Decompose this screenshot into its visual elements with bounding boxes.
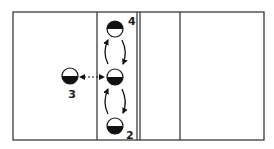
arrow-center-to-4-icon: [105, 40, 108, 64]
player-2-icon: [107, 118, 123, 134]
player-4-icon: [107, 21, 123, 37]
court-diagram: 4 3 2: [0, 0, 274, 149]
arrow-4-to-center-icon: [122, 40, 125, 64]
player-4-label: 4: [128, 15, 136, 28]
player-center-icon: [107, 69, 123, 85]
arrow-2-to-center-icon: [105, 89, 108, 114]
court-boundary: [13, 12, 264, 140]
arrow-center-to-2-icon: [122, 89, 125, 113]
player-3-icon: [62, 68, 78, 84]
player-2-label: 2: [126, 129, 134, 142]
player-3-label: 3: [68, 88, 76, 101]
